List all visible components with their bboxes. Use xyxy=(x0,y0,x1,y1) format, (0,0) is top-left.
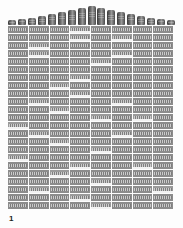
grid-cell xyxy=(29,82,49,89)
grid-cell xyxy=(29,98,49,105)
grid-cell xyxy=(153,58,173,65)
grid-cell xyxy=(112,162,132,169)
grid-cell xyxy=(8,90,28,97)
grid-cell xyxy=(8,50,28,57)
grid-cell xyxy=(50,26,70,33)
product-image xyxy=(88,6,96,25)
grid-cell xyxy=(50,202,70,209)
grid-cell xyxy=(112,90,132,97)
grid-cell xyxy=(70,130,90,137)
grid-cell xyxy=(153,50,173,57)
grid-cell xyxy=(29,122,49,129)
product-image xyxy=(68,10,76,25)
grid-cell xyxy=(70,138,90,145)
grid-cell xyxy=(70,58,90,65)
grid-cell xyxy=(8,106,28,113)
grid-cell xyxy=(133,50,153,57)
grid-cell xyxy=(133,146,153,153)
grid-cell xyxy=(29,114,49,121)
grid-cell xyxy=(112,58,132,65)
grid-cell xyxy=(29,106,49,113)
grid-cell xyxy=(70,90,90,97)
product-image xyxy=(167,20,175,25)
grid-cell xyxy=(70,114,90,121)
product-image xyxy=(117,12,125,25)
product-image xyxy=(127,14,135,25)
grid-cell xyxy=(91,42,111,49)
grid-cell xyxy=(112,50,132,57)
grid-cell xyxy=(112,98,132,105)
grid-cell xyxy=(153,146,173,153)
grid-cell xyxy=(50,186,70,193)
grid-cell xyxy=(70,194,90,201)
grid-cell xyxy=(133,58,153,65)
product-image xyxy=(147,18,155,25)
grid-cell xyxy=(70,98,90,105)
grid-cell xyxy=(91,74,111,81)
grid-cell xyxy=(112,194,132,201)
grid-cell xyxy=(112,42,132,49)
grid-cell xyxy=(8,58,28,65)
product-image xyxy=(157,19,165,25)
grid-cell xyxy=(91,66,111,73)
grid-cell xyxy=(112,154,132,161)
grid-cell xyxy=(133,122,153,129)
grid-cell xyxy=(133,162,153,169)
grid-cell xyxy=(153,114,173,121)
grid-cell xyxy=(8,98,28,105)
grid-cell xyxy=(50,82,70,89)
grid-cell xyxy=(29,26,49,33)
grid-cell xyxy=(70,154,90,161)
grid-cell xyxy=(50,178,70,185)
grid-cell xyxy=(50,154,70,161)
grid-cell xyxy=(112,106,132,113)
item-grid xyxy=(8,26,173,209)
grid-cell xyxy=(29,186,49,193)
grid-cell xyxy=(91,98,111,105)
grid-cell xyxy=(153,170,173,177)
grid-cell xyxy=(50,74,70,81)
grid-cell xyxy=(153,74,173,81)
grid-cell xyxy=(91,186,111,193)
grid-cell xyxy=(8,202,28,209)
grid-cell xyxy=(8,26,28,33)
grid-cell xyxy=(8,138,28,145)
grid-cell xyxy=(8,162,28,169)
grid-cell xyxy=(133,202,153,209)
product-image xyxy=(28,18,36,25)
grid-cell xyxy=(112,178,132,185)
grid-cell xyxy=(29,146,49,153)
grid-cell xyxy=(29,50,49,57)
grid-cell xyxy=(91,58,111,65)
grid-cell xyxy=(91,194,111,201)
grid-cell xyxy=(112,138,132,145)
grid-cell xyxy=(29,138,49,145)
product-image xyxy=(38,16,46,25)
grid-cell xyxy=(133,170,153,177)
grid-cell xyxy=(29,90,49,97)
grid-cell xyxy=(133,34,153,41)
grid-cell xyxy=(70,146,90,153)
grid-cell xyxy=(8,114,28,121)
grid-cell xyxy=(153,186,173,193)
grid-cell xyxy=(29,130,49,137)
grid-cell xyxy=(50,98,70,105)
grid-cell xyxy=(153,42,173,49)
product-image xyxy=(48,14,56,25)
grid-cell xyxy=(70,74,90,81)
grid-cell xyxy=(70,50,90,57)
grid-cell xyxy=(91,114,111,121)
grid-cell xyxy=(50,138,70,145)
grid-cell xyxy=(133,186,153,193)
grid-cell xyxy=(153,122,173,129)
grid-cell xyxy=(8,74,28,81)
grid-cell xyxy=(50,162,70,169)
grid-cell xyxy=(91,138,111,145)
product-image xyxy=(58,12,66,25)
grid-cell xyxy=(133,194,153,201)
grid-cell xyxy=(112,130,132,137)
grid-cell xyxy=(50,194,70,201)
product-image-banner xyxy=(8,4,175,25)
grid-cell xyxy=(50,90,70,97)
grid-cell xyxy=(112,26,132,33)
